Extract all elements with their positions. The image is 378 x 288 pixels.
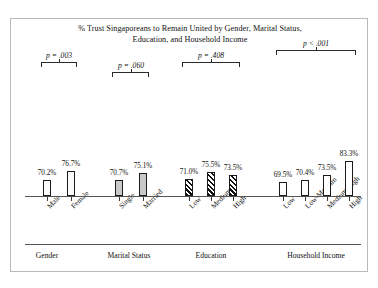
group-label-household-income: Household Income <box>271 251 361 260</box>
bar-value-label: 70.2% <box>31 169 63 177</box>
bar-household-income-low-medium[interactable] <box>301 180 309 196</box>
p-value-gender: p = .003 <box>29 51 89 60</box>
p-value-household-income: p < .001 <box>286 39 346 48</box>
bar-education-medium[interactable] <box>207 172 215 196</box>
bar-value-label: 71.0% <box>173 168 205 176</box>
bar-marital-status-married[interactable] <box>139 173 147 196</box>
group-label-marital-status: Marital Status <box>84 251 174 260</box>
group-label-gender: Gender <box>2 251 92 260</box>
plot-area: p = .00370.2%Male76.7%FemaleGenderp = .0… <box>11 19 369 273</box>
group-separator-line <box>25 244 361 245</box>
bar-household-income-high[interactable] <box>345 161 353 196</box>
bar-household-income-low[interactable] <box>279 182 287 196</box>
bar-household-income-medium-high[interactable] <box>323 175 331 196</box>
bar-gender-male[interactable] <box>43 180 51 196</box>
bar-gender-female[interactable] <box>67 171 75 196</box>
figure-frame: % Trust Singaporeans to Remain United by… <box>10 18 368 272</box>
p-value-education: p = .408 <box>181 51 241 60</box>
group-label-education: Education <box>166 251 256 260</box>
bar-education-low[interactable] <box>185 179 193 196</box>
p-value-marital-status: p = .060 <box>101 61 161 70</box>
bar-education-high[interactable] <box>229 175 237 196</box>
bar-value-label: 75.1% <box>127 162 159 170</box>
bar-value-label: 83.3% <box>333 150 365 158</box>
bar-value-label: 73.5% <box>217 164 249 172</box>
bar-value-label: 73.5% <box>311 164 343 172</box>
bar-marital-status-single[interactable] <box>115 180 123 196</box>
x-axis-line <box>25 196 361 197</box>
bar-value-label: 76.7% <box>55 160 87 168</box>
